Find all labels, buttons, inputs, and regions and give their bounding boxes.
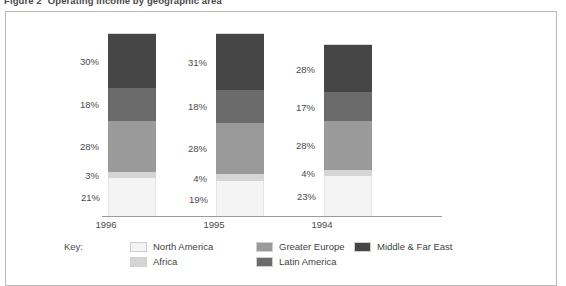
bar-segment: 28% — [324, 44, 372, 92]
stacked-bar: 28%17%28%4%23% — [324, 44, 372, 216]
legend-item-label: Greater Europe — [279, 241, 344, 252]
legend-column: Middle & Far East — [354, 240, 453, 255]
bar-segment: 21% — [108, 178, 156, 216]
legend-item-label: Africa — [153, 256, 177, 267]
bar-segment-value-label: 28% — [80, 141, 99, 152]
stacked-bar: 30%18%28%3%21% — [108, 33, 156, 216]
legend-swatch-icon — [130, 257, 147, 267]
figure-caption: Figure 2Operating income by geographic a… — [4, 0, 222, 6]
legend-swatch-icon — [130, 242, 147, 252]
bar-segment: 19% — [216, 181, 264, 216]
bar-segment-value-label: 18% — [80, 99, 99, 110]
legend-item[interactable]: Latin America — [256, 255, 344, 268]
x-axis-tick-label: 1994 — [262, 219, 382, 230]
x-axis-tick-label: 1995 — [154, 219, 274, 230]
bar-segment: 28% — [108, 121, 156, 172]
bar-segment-value-label: 17% — [296, 101, 315, 112]
bar-segment: 28% — [216, 123, 264, 174]
legend-item[interactable]: Middle & Far East — [354, 240, 453, 253]
bar-segment-value-label: 4% — [301, 167, 315, 178]
chart-legend: Key: North AmericaAfrica Greater EuropeL… — [6, 240, 558, 274]
legend-item-label: Latin America — [279, 256, 337, 267]
bar-segment: 28% — [324, 121, 372, 169]
bar-segment-value-label: 30% — [80, 55, 99, 66]
bar-segment: 31% — [216, 33, 264, 90]
bar-segment-value-label: 28% — [296, 63, 315, 74]
bar-segment: 23% — [324, 176, 372, 216]
bar-segment-value-label: 19% — [189, 193, 208, 204]
legend-item-label: Middle & Far East — [377, 241, 453, 252]
bar-segment: 30% — [108, 33, 156, 88]
legend-swatch-icon — [256, 257, 273, 267]
bar-segment: 4% — [216, 174, 264, 181]
x-axis-line — [102, 216, 442, 217]
legend-column: Greater EuropeLatin America — [256, 240, 344, 270]
bar-segment-value-label: 31% — [188, 56, 207, 67]
bar-segment-value-label: 3% — [85, 169, 99, 180]
figure-caption-text: Operating income by geographic area — [48, 0, 222, 6]
legend-item[interactable]: North America — [130, 240, 213, 253]
legend-item-label: North America — [153, 241, 213, 252]
bar-segment-value-label: 4% — [193, 172, 207, 183]
legend-column: North AmericaAfrica — [130, 240, 213, 270]
bar-segment-value-label: 28% — [296, 140, 315, 151]
x-axis-tick-label: 1996 — [46, 219, 166, 230]
legend-title: Key: — [64, 241, 83, 252]
bar-segment-value-label: 28% — [188, 143, 207, 154]
bar-segment-value-label: 23% — [297, 191, 316, 202]
chart-panel: 30%18%28%3%21% 31%18%28%4%19% 28%17%28%4… — [5, 11, 557, 286]
bar-segment-value-label: 21% — [81, 191, 100, 202]
bar-segment: 17% — [324, 92, 372, 121]
legend-item[interactable]: Greater Europe — [256, 240, 344, 253]
bar-segment: 18% — [216, 90, 264, 123]
legend-swatch-icon — [354, 242, 371, 252]
bar-segment: 18% — [108, 88, 156, 121]
legend-swatch-icon — [256, 242, 273, 252]
bar-segment-value-label: 18% — [188, 101, 207, 112]
plot-area: 30%18%28%3%21% 31%18%28%4%19% 28%17%28%4… — [6, 12, 558, 224]
bar-segment: 4% — [324, 170, 372, 177]
legend-item[interactable]: Africa — [130, 255, 213, 268]
figure-number: Figure 2 — [4, 0, 42, 6]
stacked-bar: 31%18%28%4%19% — [216, 33, 264, 216]
